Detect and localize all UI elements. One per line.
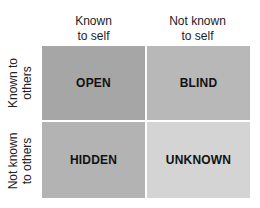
column-label-line1: Not known (146, 14, 249, 29)
quadrant-label: UNKNOWN (166, 153, 231, 167)
quadrant-label: OPEN (76, 76, 111, 90)
column-label-not-known-to-self: Not known to self (146, 14, 249, 44)
row-label-known-to-others: Known to others (0, 46, 40, 120)
row-label-line2: to others (20, 132, 34, 189)
row-label-not-known-to-others: Not known to others (0, 123, 40, 198)
quadrant-open: OPEN (42, 46, 145, 120)
column-label-known-to-self: Known to self (42, 14, 145, 44)
column-label-line1: Known (42, 14, 145, 29)
column-label-line2: to self (42, 29, 145, 44)
quadrant-label: BLIND (180, 76, 218, 90)
row-label-line1: Known to (6, 58, 20, 108)
quadrant-label: HIDDEN (70, 153, 117, 167)
column-label-line2: to self (146, 29, 249, 44)
row-label-line2: others (20, 58, 34, 108)
quadrant-hidden: HIDDEN (42, 122, 145, 198)
row-label-line1: Not known (6, 132, 20, 189)
quadrant-unknown: UNKNOWN (147, 122, 250, 198)
quadrant-blind: BLIND (147, 46, 250, 120)
